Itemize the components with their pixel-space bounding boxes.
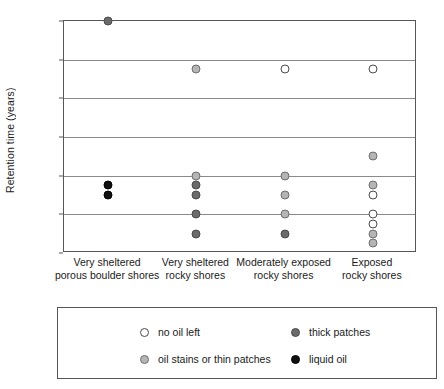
data-point <box>192 229 201 238</box>
y-axis-tick-mark <box>59 137 63 138</box>
gridline <box>64 214 415 215</box>
y-axis-tick-mark <box>59 98 63 99</box>
y-axis-tick-mark <box>59 59 63 60</box>
data-point <box>368 220 377 229</box>
legend-label: no oil left <box>158 326 200 338</box>
data-point <box>104 181 113 190</box>
y-axis-tick-mark <box>59 175 63 176</box>
data-point <box>280 210 289 219</box>
data-point <box>280 171 289 180</box>
data-point <box>192 210 201 219</box>
data-point <box>280 191 289 200</box>
data-point <box>368 210 377 219</box>
legend-label: liquid oil <box>309 353 347 365</box>
y-axis-label: Retention time (years) <box>2 40 18 240</box>
plot-area <box>63 20 416 252</box>
retention-time-scatter-chart: Retention time (years) 024681012 Very sh… <box>0 0 444 300</box>
legend-item-stain: oil stains or thin patches <box>140 353 271 365</box>
gridline <box>64 176 415 177</box>
data-point <box>368 229 377 238</box>
legend-label: thick patches <box>309 326 370 338</box>
data-point <box>104 17 113 26</box>
data-point <box>192 191 201 200</box>
gridline <box>64 137 415 138</box>
y-axis-tick-mark <box>59 214 63 215</box>
legend-swatch-none-icon <box>140 328 149 337</box>
legend-swatch-liquid-icon <box>291 355 300 364</box>
legend-item-none: no oil left <box>140 326 200 338</box>
data-point <box>368 152 377 161</box>
y-axis-tick-mark <box>59 21 63 22</box>
data-point <box>368 239 377 248</box>
data-point <box>280 65 289 74</box>
x-axis-category-3: Exposed rocky shores <box>312 256 432 281</box>
data-point <box>368 65 377 74</box>
data-point <box>192 65 201 74</box>
data-point <box>280 229 289 238</box>
y-axis-tick-mark <box>59 253 63 254</box>
chart-legend: no oil leftthick patchesoil stains or th… <box>57 307 437 379</box>
legend-label: oil stains or thin patches <box>158 353 271 365</box>
data-point <box>192 171 201 180</box>
gridline <box>64 60 415 61</box>
data-point <box>368 181 377 190</box>
data-point <box>192 181 201 190</box>
legend-swatch-stain-icon <box>140 355 149 364</box>
legend-item-thick: thick patches <box>291 326 370 338</box>
gridline <box>64 98 415 99</box>
data-point <box>104 191 113 200</box>
legend-swatch-thick-icon <box>291 328 300 337</box>
legend-item-liquid: liquid oil <box>291 353 347 365</box>
data-point <box>368 191 377 200</box>
